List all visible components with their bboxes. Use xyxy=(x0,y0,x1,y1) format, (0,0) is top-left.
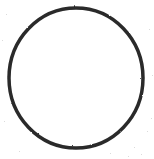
figure-canvas xyxy=(0,0,154,159)
circle-drawing xyxy=(0,0,154,159)
canvas-background xyxy=(0,0,154,159)
